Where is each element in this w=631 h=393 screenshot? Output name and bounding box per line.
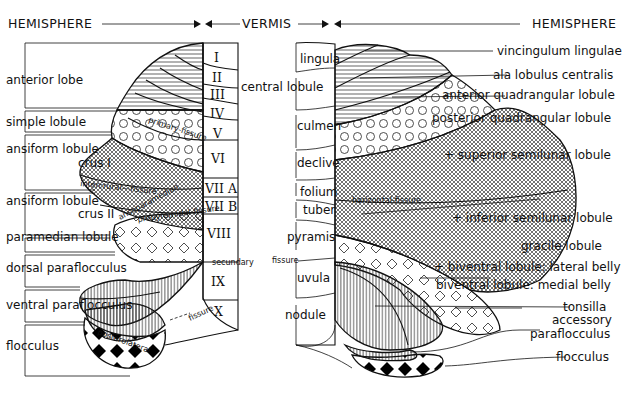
label-paramedian-lobule: paramedian lobule xyxy=(6,230,119,244)
cerebellum-diagram: HEMISPHERE VERMIS HEMISPHERE xyxy=(0,0,631,393)
arrow-right-icon xyxy=(322,20,329,28)
vermis-numeral-X: X xyxy=(214,304,223,319)
label-declive: declive xyxy=(297,156,340,170)
label-pyramis: pyramis xyxy=(287,230,335,244)
vermis-numeral-column: I II III IV V VI VII A VII B VIII IX X xyxy=(203,43,238,330)
label-uvula: uvula xyxy=(297,271,330,285)
label-ansiform-crus2-a: ansiform lobule xyxy=(6,194,99,208)
vermis-numeral-VIII: VIII xyxy=(206,226,231,241)
label-dorsal-paraflocculus: dorsal paraflocculus xyxy=(6,261,127,275)
label-inferior-semilunar: + inferior semilunar lobule xyxy=(452,211,613,225)
arrow-left-icon xyxy=(205,20,212,28)
header-vermis: VERMIS xyxy=(242,16,291,31)
label-ala-lobulus-centralis: ala lobulus centralis xyxy=(493,68,613,82)
label-secundary-fissure: secundary xyxy=(212,258,254,267)
vermis-numeral-VIIA: VII A xyxy=(204,181,238,196)
arrow-right-icon xyxy=(194,20,201,28)
label-tuber: tuber xyxy=(303,203,335,217)
vermis-names: lingula central lobule culmen declive fo… xyxy=(241,42,341,346)
label-ventral-paraflocculus: ventral paraflocculus xyxy=(6,298,132,312)
header-left-hemisphere: HEMISPHERE xyxy=(8,16,92,31)
label-folium: folium xyxy=(300,185,338,199)
label-vincingulum-lingulae: vincingulum lingulae xyxy=(497,44,622,58)
label-posterior-quadrangular: posterior quadrangular lobule xyxy=(432,111,611,125)
label-fissure-left: fissure xyxy=(187,303,215,322)
vermis-numeral-VI: VI xyxy=(210,151,225,166)
label-superior-semilunar: + superior semilunar lobule xyxy=(444,148,611,162)
label-nodule: nodule xyxy=(285,308,326,322)
label-simple-lobule: simple lobule xyxy=(6,115,86,129)
label-biventral-medial: biventral lobule: medial belly xyxy=(436,278,611,292)
label-ansiform-crus1-a: ansiform lobule xyxy=(6,142,99,156)
label-lingula: lingula xyxy=(300,52,340,66)
label-tonsilla: tonsilla xyxy=(563,300,606,314)
vermis-numeral-IX: IX xyxy=(211,274,225,289)
label-anterior-lobe: anterior lobe xyxy=(6,73,83,87)
vermis-numeral-IV: IV xyxy=(210,106,225,121)
vermis-numeral-V: V xyxy=(212,126,223,141)
header: HEMISPHERE VERMIS HEMISPHERE xyxy=(8,16,616,31)
label-horizontal-fissure: horizontal-fissure xyxy=(352,196,421,205)
label-ansiform-crus1-b: crus I xyxy=(78,156,111,170)
label-gracile-lobule: gracile lobule xyxy=(521,239,602,253)
vermis-numeral-III: III xyxy=(210,87,225,102)
vermis-numeral-II: II xyxy=(212,70,222,85)
label-flocculus-right: flocculus xyxy=(556,350,609,364)
arrow-left-icon xyxy=(334,20,341,28)
header-right-hemisphere: HEMISPHERE xyxy=(532,16,616,31)
label-anterior-quadrangular: anterior quadrangular lobule xyxy=(442,88,615,102)
vermis-numeral-I: I xyxy=(214,50,219,65)
label-paraflocculus: paraflocculus xyxy=(530,327,610,341)
label-accessory: accessory xyxy=(552,313,612,327)
label-biventral-lateral: + biventral lobule: lateral belly xyxy=(434,260,621,274)
label-ansiform-crus2-b: crus II xyxy=(78,207,114,221)
label-fissure-vermis: fissure xyxy=(272,256,299,265)
label-central-lobule: central lobule xyxy=(241,80,323,94)
label-flocculus-left: flocculus xyxy=(6,339,59,353)
